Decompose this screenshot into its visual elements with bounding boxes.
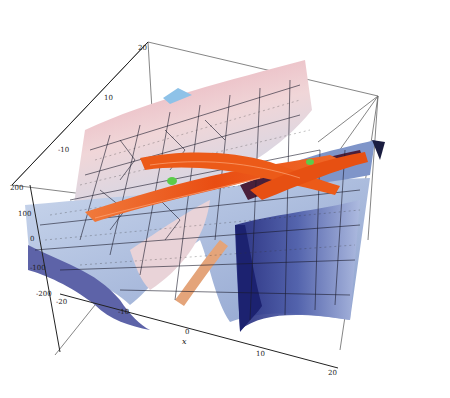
marker-point xyxy=(167,177,177,185)
marker-point xyxy=(306,159,314,165)
svg-text:20: 20 xyxy=(138,44,147,52)
svg-text:-10: -10 xyxy=(118,308,129,316)
svg-text:-10: -10 xyxy=(58,146,69,154)
svg-text:-20: -20 xyxy=(56,298,67,306)
svg-text:0: 0 xyxy=(185,328,189,336)
svg-text:10: 10 xyxy=(256,350,265,358)
svg-text:-100: -100 xyxy=(30,264,46,272)
svg-text:200: 200 xyxy=(10,184,23,192)
svg-text:x: x xyxy=(182,337,187,346)
svg-text:20: 20 xyxy=(328,369,337,377)
svg-text:10: 10 xyxy=(104,94,113,102)
svg-text:0: 0 xyxy=(30,235,34,243)
svg-text:100: 100 xyxy=(18,210,31,218)
surface xyxy=(25,60,385,332)
surface-plot-3d: 200 100 0 -100 -200 -10 10 20 -20 -10 0 … xyxy=(0,0,450,398)
svg-text:-200: -200 xyxy=(36,290,52,298)
